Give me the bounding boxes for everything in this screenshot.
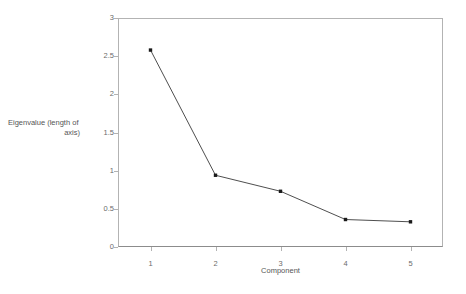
y-axis-title-line-1: Eigenvalue (length of: [8, 118, 94, 128]
x-axis-title: Component: [118, 266, 443, 276]
y-tick-label-text: 1: [96, 167, 114, 175]
x-tick-mark: [216, 247, 217, 251]
series-polyline: [151, 50, 411, 222]
y-axis-title-line-2: axis): [8, 128, 94, 138]
y-tick-label: 2: [96, 90, 114, 98]
y-tick-label: 2.5: [96, 52, 114, 60]
data-point-marker: [409, 220, 412, 223]
x-tick-mark: [411, 247, 412, 251]
data-series-line: [118, 18, 443, 247]
y-tick-label-text: 1.5: [96, 129, 114, 137]
y-tick-label: 0: [96, 243, 114, 251]
y-tick-label-text: 3: [96, 14, 114, 22]
scree-plot-chart: 00.511.522.53 12345 Component Eigenvalue…: [0, 0, 466, 294]
x-tick-mark: [151, 247, 152, 251]
y-tick-label-text: 0: [96, 243, 114, 251]
y-tick-mark: [114, 247, 118, 248]
data-point-marker: [344, 218, 347, 221]
y-tick-label: 1.5: [96, 129, 114, 137]
data-point-marker: [214, 174, 217, 177]
y-axis-title: Eigenvalue (length of axis): [8, 118, 94, 138]
y-tick-label-text: 0.5: [96, 205, 114, 213]
y-tick-label: 0.5: [96, 205, 114, 213]
series-markers: [149, 48, 412, 223]
data-point-marker: [149, 48, 152, 51]
y-tick-label-text: 2: [96, 90, 114, 98]
data-point-marker: [279, 190, 282, 193]
y-tick-label: 3: [96, 14, 114, 22]
x-tick-mark: [346, 247, 347, 251]
y-tick-label-text: 2.5: [96, 52, 114, 60]
x-tick-mark: [281, 247, 282, 251]
y-tick-label: 1: [96, 167, 114, 175]
